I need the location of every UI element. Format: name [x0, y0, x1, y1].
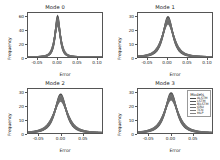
legend: Models ALSTMLSTMBiLSTMGRUTCNMLP: [187, 90, 211, 117]
y-tick-mark: [135, 92, 137, 93]
y-tick-label: 20: [123, 28, 134, 33]
x-axis-label: Error: [137, 72, 213, 77]
y-tick-label: 0: [13, 132, 24, 137]
x-axis-label: Error: [137, 148, 213, 153]
y-tick-mark: [25, 44, 27, 45]
x-tick-label: -0.05: [29, 136, 47, 141]
subplot-title: Mode 0: [0, 4, 110, 10]
y-tick-mark: [25, 106, 27, 107]
y-axis-label: Frequency: [117, 113, 122, 136]
x-tick-label: 0.00: [48, 60, 66, 65]
y-tick-label: 60: [13, 14, 24, 19]
subplot-title: Mode 1: [110, 4, 220, 10]
y-tick-mark: [135, 106, 137, 107]
subplot-mode-3: Mode 3 Frequency Models ALSTMLSTMBiLSTMG…: [110, 80, 220, 160]
y-tick-mark: [135, 120, 137, 121]
y-tick-mark: [135, 134, 137, 135]
x-tick-label: 0.05: [184, 136, 202, 141]
y-tick-mark: [25, 16, 27, 17]
y-axis-label: Frequency: [7, 37, 12, 60]
y-tick-label: 20: [13, 42, 24, 47]
y-tick-mark: [135, 30, 137, 31]
curves-svg: [138, 13, 212, 57]
y-tick-mark: [135, 58, 137, 59]
y-tick-label: 40: [13, 28, 24, 33]
plot-area: [137, 12, 213, 58]
y-tick-label: 0: [13, 56, 24, 61]
y-tick-label: 20: [123, 104, 134, 109]
x-tick-label: 0.10: [88, 60, 106, 65]
y-tick-label: 30: [13, 90, 24, 95]
legend-line-swatch: [190, 113, 196, 114]
x-tick-label: 0.05: [178, 60, 196, 65]
figure: Mode 0 Frequency Error -0.050.000.050.10…: [0, 0, 220, 160]
y-tick-label: 30: [123, 14, 134, 19]
y-tick-label: 0: [123, 56, 134, 61]
y-tick-label: 10: [123, 42, 134, 47]
subplot-title: Mode 3: [110, 80, 220, 86]
plot-area: [27, 88, 103, 134]
plot-area: Models ALSTMLSTMBiLSTMGRUTCNMLP: [137, 88, 213, 134]
curves-svg: [28, 13, 102, 57]
x-tick-label: -0.05: [28, 60, 46, 65]
y-axis-label: Frequency: [7, 113, 12, 136]
x-tick-label: 0.00: [158, 60, 176, 65]
subplot-mode-0: Mode 0 Frequency Error -0.050.000.050.10…: [0, 4, 110, 80]
y-tick-mark: [25, 92, 27, 93]
x-tick-label: -0.05: [139, 136, 157, 141]
y-tick-label: 30: [123, 90, 134, 95]
y-tick-label: 10: [13, 118, 24, 123]
legend-line-swatch: [190, 101, 196, 102]
legend-item-label: MLP: [197, 112, 203, 115]
x-tick-label: 0.05: [68, 60, 86, 65]
y-tick-label: 20: [13, 104, 24, 109]
y-tick-mark: [25, 30, 27, 31]
y-tick-label: 0: [123, 132, 134, 137]
curves-svg: [28, 89, 102, 133]
subplot-title: Mode 2: [0, 80, 110, 86]
legend-line-swatch: [190, 98, 196, 99]
y-tick-mark: [25, 134, 27, 135]
y-axis-label: Frequency: [117, 37, 122, 60]
x-tick-label: 0.10: [198, 60, 216, 65]
y-tick-mark: [135, 44, 137, 45]
legend-line-swatch: [190, 110, 196, 111]
legend-entries: ALSTMLSTMBiLSTMGRUTCNMLP: [190, 97, 209, 115]
y-tick-mark: [135, 16, 137, 17]
subplot-mode-2: Mode 2 Frequency Error -0.050.000.050102…: [0, 80, 110, 160]
x-tick-label: -0.05: [138, 60, 156, 65]
x-tick-label: 0.00: [52, 136, 70, 141]
y-tick-label: 10: [123, 118, 134, 123]
legend-line-swatch: [190, 107, 196, 108]
plot-area: [27, 12, 103, 58]
legend-item[interactable]: MLP: [190, 112, 209, 115]
subplot-mode-1: Mode 1 Frequency Error -0.050.000.050.10…: [110, 4, 220, 80]
y-tick-mark: [25, 120, 27, 121]
legend-line-swatch: [190, 104, 196, 105]
y-tick-mark: [25, 58, 27, 59]
x-axis-label: Error: [27, 148, 103, 153]
x-tick-label: 0.00: [162, 136, 180, 141]
x-axis-label: Error: [27, 72, 103, 77]
x-tick-label: 0.05: [74, 136, 92, 141]
